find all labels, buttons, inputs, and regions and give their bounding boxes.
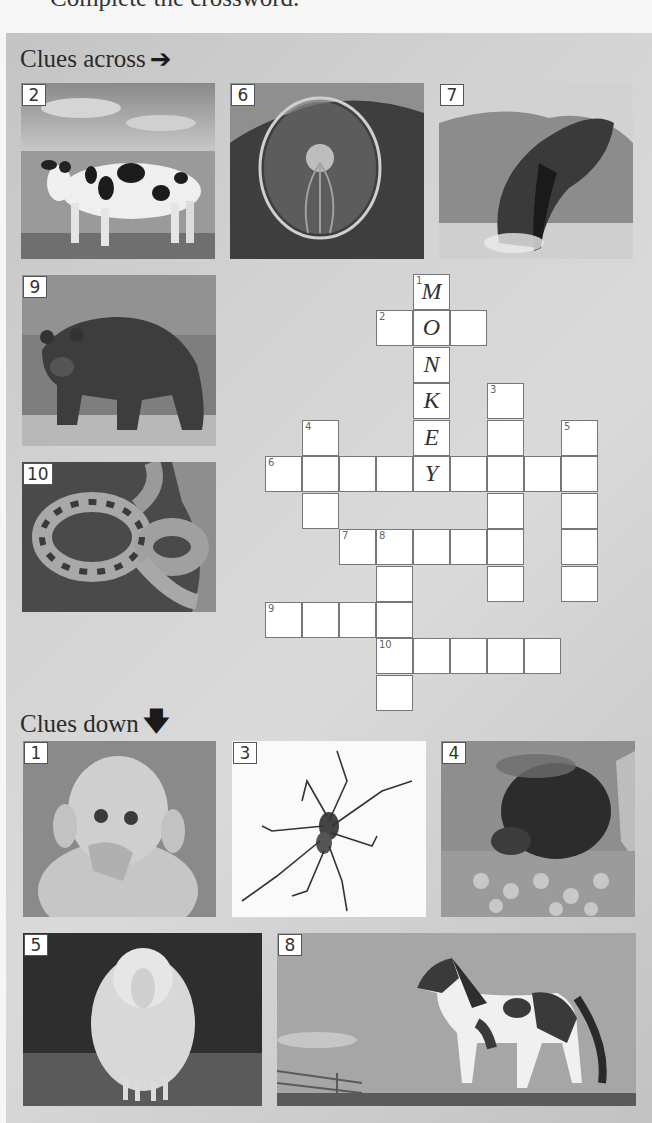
crossword-cell[interactable] [487,566,524,602]
crossword-cell[interactable] [302,456,339,492]
crossword-cell[interactable] [302,602,339,638]
whale-image [439,83,633,259]
crossword-cell[interactable] [561,456,598,492]
crossword-cell[interactable] [487,493,524,529]
cell-letter: O [414,314,449,341]
crossword-cell[interactable] [376,566,413,602]
sheep-image [23,933,262,1106]
clue-number: 9 [23,276,47,298]
crossword-cell[interactable] [376,456,413,492]
spider-image [232,741,426,917]
clues-down-label: Clues down [20,710,139,738]
clue-down-3-spider: 3 [232,741,426,917]
clue-down-8-horse: 8 [277,933,636,1106]
crossword-cell[interactable] [450,310,487,346]
crossword-cell[interactable]: 1M [413,274,450,310]
cow-image [21,83,215,259]
crossword-cell[interactable]: 7 [339,529,376,565]
clue-across-9-bear: 9 [22,275,216,446]
clue-across-10-snake: 10 [22,462,216,612]
cell-number: 3 [490,384,496,395]
horse-image [277,933,636,1106]
crossword-cell[interactable] [339,602,376,638]
crossword-cell[interactable]: 8 [376,529,413,565]
crossword-cell[interactable]: K [413,383,450,419]
arrow-down-icon: 🡇 [143,702,170,746]
cell-number: 7 [342,530,348,541]
cell-letter: N [414,351,449,378]
crossword-cell[interactable]: 5 [561,420,598,456]
crossword-cell[interactable] [376,675,413,711]
crossword-cell[interactable]: 10 [376,638,413,674]
clue-number: 5 [24,934,48,956]
crossword-cell[interactable]: O [413,310,450,346]
bee-image [441,741,635,917]
crossword-cell[interactable] [487,529,524,565]
cell-number: 9 [268,603,274,614]
clue-number: 3 [233,742,257,764]
crossword-cell[interactable] [302,493,339,529]
clue-number: 1 [24,742,48,764]
crossword-cell[interactable] [487,456,524,492]
crossword-cell[interactable] [524,456,561,492]
cell-number: 8 [379,530,385,541]
crossword-cell[interactable] [561,566,598,602]
clue-across-7-whale: 7 [439,83,633,259]
instruction-text: Complete the crossword. [50,0,299,12]
clue-number: 6 [231,84,255,106]
crossword-cell[interactable] [487,638,524,674]
clue-down-4-bee: 4 [441,741,635,917]
crossword-cell[interactable]: 4 [302,420,339,456]
crossword-cell[interactable]: 3 [487,383,524,419]
crossword-cell[interactable]: 9 [265,602,302,638]
clue-across-6-jellyfish: 6 [230,83,424,259]
crossword-cell[interactable] [487,420,524,456]
crossword-cell[interactable]: E [413,420,450,456]
clues-down-heading: Clues down 🡇 [20,702,170,746]
monkey-image [23,741,216,917]
clue-down-1-monkey: 1 [23,741,216,917]
clue-across-2-cow: 2 [21,83,215,259]
cell-number: 6 [268,457,274,468]
crossword-cell[interactable]: 6 [265,456,302,492]
cell-number: 4 [305,421,311,432]
cell-letter: K [414,387,449,414]
crossword-cell[interactable] [339,456,376,492]
clue-down-5-sheep: 5 [23,933,262,1106]
cell-number: 5 [564,421,570,432]
clue-number: 10 [23,463,53,485]
cell-letter: Y [414,460,449,487]
crossword-cell[interactable] [450,456,487,492]
crossword-cell[interactable]: N [413,347,450,383]
cell-letter: M [414,278,449,305]
clue-number: 8 [278,934,302,956]
crossword-cell[interactable] [561,529,598,565]
bear-image [22,275,216,446]
crossword-cell[interactable] [561,493,598,529]
crossword-cell[interactable] [376,602,413,638]
jellyfish-image [230,83,424,259]
cell-number: 2 [379,311,385,322]
crossword-cell[interactable]: 2 [376,310,413,346]
clue-number: 4 [442,742,466,764]
cell-number: 10 [379,639,392,650]
arrow-right-icon: ➔ [150,44,172,74]
crossword-cell[interactable] [450,638,487,674]
crossword-cell[interactable] [524,638,561,674]
clue-number: 2 [22,84,46,106]
crossword-cell[interactable] [413,638,450,674]
cell-letter: E [414,424,449,451]
crossword-cell[interactable] [413,529,450,565]
crossword-cell[interactable] [450,529,487,565]
clues-across-label: Clues across [20,45,146,73]
clues-across-heading: Clues across ➔ [20,44,171,74]
crossword-cell[interactable]: Y [413,456,450,492]
clue-number: 7 [440,84,464,106]
